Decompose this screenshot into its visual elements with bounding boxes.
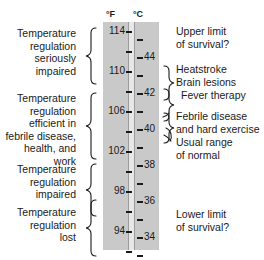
tick-mark <box>137 75 143 77</box>
tick-mark <box>126 171 132 173</box>
left-brace-regulation-efficient <box>86 93 96 159</box>
tick-mark <box>126 251 132 253</box>
tick-mark <box>137 39 143 41</box>
tick-mark <box>137 201 143 203</box>
label-lower-limit: Lower limit of survival? <box>176 208 229 233</box>
tick-mark <box>126 91 132 93</box>
label-heatstroke: Heatstroke Brain lesions <box>176 63 236 88</box>
right-pointer-usual-range <box>164 135 171 141</box>
right-brace-heatstroke <box>164 66 174 100</box>
left-brace-seriously-impaired <box>86 28 96 84</box>
tick-mark <box>137 111 143 113</box>
label-upper-limit: Upper limit of survival? <box>176 25 229 50</box>
tick-mark <box>137 129 143 131</box>
tick-mark <box>126 111 132 113</box>
left-brace-regulation-impaired <box>86 164 96 216</box>
label-usual-range: Usual range of normal <box>176 136 233 161</box>
tick-mark <box>137 165 143 167</box>
tick-mark <box>137 183 143 185</box>
right-brace-febrile-disease <box>164 113 174 143</box>
tick-mark <box>126 131 132 133</box>
tick-mark <box>137 93 143 95</box>
label-febrile-disease: Febrile disease and hard exercise <box>176 110 259 135</box>
label-regulation-efficient: Temperature regulation efficient in febr… <box>0 92 76 168</box>
right-brace-fever-therapy <box>164 89 174 121</box>
thermometer-tube <box>128 22 135 250</box>
tick-mark <box>137 255 143 257</box>
tick-mark <box>137 147 143 149</box>
tick-mark <box>126 231 132 233</box>
tick-mark <box>126 31 132 33</box>
tick-mark <box>126 71 132 73</box>
left-brace-regulation-lost <box>86 200 96 256</box>
tick-mark <box>126 211 132 213</box>
tick-mark <box>126 151 132 153</box>
tick-mark <box>137 57 143 59</box>
right-brace-usual-range <box>166 128 171 141</box>
label-seriously-impaired: Temperature regulation seriously impaire… <box>17 27 76 77</box>
label-regulation-lost: Temperature regulation lost <box>17 206 76 244</box>
tick-mark <box>126 51 132 53</box>
right-pointer-febrile-disease <box>163 113 169 117</box>
tick-mark <box>126 191 132 193</box>
thermometer-diagram: °F °C 114 110 106 102 98 94 90 86 <box>0 0 264 260</box>
celsius-unit-label: °C <box>133 9 143 19</box>
label-regulation-impaired: Temperature regulation impaired <box>17 163 76 201</box>
tick-mark <box>137 237 143 239</box>
tick-mark <box>137 219 143 221</box>
label-fever-therapy: Fever therapy <box>181 89 246 102</box>
fahrenheit-unit-label: °F <box>106 9 115 19</box>
